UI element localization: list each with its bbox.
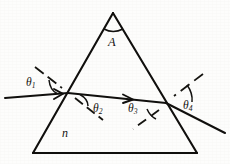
apex-angle-label: A: [108, 36, 116, 49]
prism-right-edge: [113, 13, 197, 153]
theta3-label: θ3: [128, 103, 138, 116]
prism-left-edge: [33, 13, 113, 153]
prism-refraction-figure: A n θ1 θ2 θ3 θ4: [0, 0, 230, 164]
refractive-index-label: n: [62, 127, 68, 139]
prism-outline: [33, 13, 197, 153]
entry-normal-upper-dash: [35, 67, 62, 88]
theta4-label: θ4: [183, 100, 193, 113]
theta3-symbol: θ: [128, 102, 134, 114]
theta2-subscript: 2: [99, 107, 103, 116]
incident-ray-group: [5, 89, 68, 99]
theta2-symbol: θ: [93, 102, 99, 114]
exit-normal-upper-dash: [174, 74, 203, 96]
theta4-symbol: θ: [183, 99, 189, 111]
theta2-label: θ2: [93, 103, 103, 116]
theta1-subscript: 1: [32, 81, 36, 90]
theta2-arc: [80, 95, 88, 107]
apex-angle-arc: [104, 29, 123, 32]
theta4-subscript: 4: [189, 104, 193, 113]
internal-ray-group: [68, 93, 166, 103]
theta1-label: θ1: [26, 77, 36, 90]
internal-ray: [68, 93, 166, 103]
theta3-subscript: 3: [134, 107, 138, 116]
theta1-symbol: θ: [26, 76, 32, 88]
